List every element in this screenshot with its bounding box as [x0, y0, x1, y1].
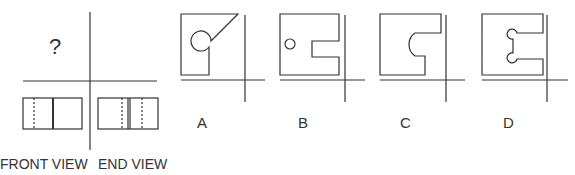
front-view-label: FRONT VIEW: [0, 156, 88, 172]
option-a-shape: [181, 14, 265, 102]
front-view-shape: [23, 98, 82, 129]
option-b-label[interactable]: B: [298, 114, 308, 131]
end-view-shape: [98, 98, 158, 129]
option-a-label[interactable]: A: [197, 114, 207, 131]
end-view-label: END VIEW: [98, 156, 167, 172]
option-d-shape: [482, 14, 568, 102]
unknown-view-marker: ?: [49, 34, 61, 60]
option-c-shape: [380, 14, 465, 102]
option-d-label[interactable]: D: [503, 114, 514, 131]
option-c-label[interactable]: C: [400, 114, 411, 131]
option-b-shape: [280, 14, 365, 102]
orthographic-puzzle-drawing: [0, 0, 575, 175]
